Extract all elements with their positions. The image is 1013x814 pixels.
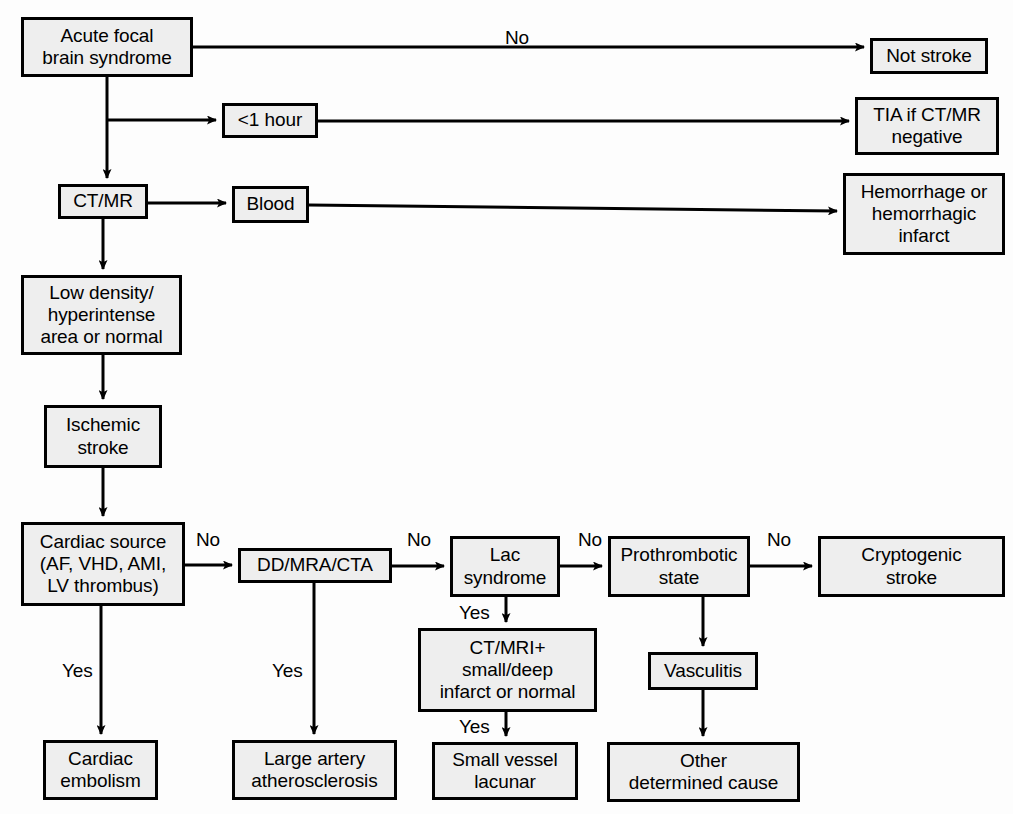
edge-label-no_cardiac_dd: No: [196, 529, 220, 551]
node-cardiac_src[interactable]: Cardiac source(AF, VHD, AMI,LV thrombus): [21, 522, 185, 606]
edge-label-no_pro_crypto: No: [767, 529, 791, 551]
node-label-ischemic: Ischemicstroke: [47, 414, 159, 458]
node-large_artery[interactable]: Large arteryatherosclerosis: [232, 740, 397, 800]
edge-label-yes_cardiac: Yes: [62, 660, 93, 682]
node-label-cardiac_src: Cardiac source(AF, VHD, AMI,LV thrombus): [24, 531, 182, 597]
node-ddmracta[interactable]: DD/MRA/CTA: [238, 548, 392, 583]
node-label-small_vessel: Small vessellacunar: [435, 749, 575, 793]
node-other_cause[interactable]: Otherdetermined cause: [607, 742, 800, 802]
edge-label-yes_lac: Yes: [459, 602, 490, 624]
node-tia[interactable]: TIA if CT/MRnegative: [855, 97, 999, 155]
edge-label-no_dd_lac: No: [407, 529, 431, 551]
node-label-not_stroke: Not stroke: [873, 45, 985, 67]
node-one_hour[interactable]: <1 hour: [222, 103, 318, 138]
node-label-other_cause: Otherdetermined cause: [610, 750, 797, 794]
edge-label-yes_dd: Yes: [272, 660, 303, 682]
node-label-cardiac_emb: Cardiacembolism: [46, 748, 155, 792]
node-acute[interactable]: Acute focalbrain syndrome: [21, 17, 193, 77]
node-cryptogenic[interactable]: Cryptogenicstroke: [818, 536, 1005, 597]
node-hemorrhage[interactable]: Hemorrhage orhemorrhagicinfarct: [843, 173, 1005, 255]
node-label-acute: Acute focalbrain syndrome: [24, 25, 190, 69]
node-label-ctmri_plus: CT/MRI+small/deepinfarct or normal: [421, 637, 594, 703]
node-label-ctmr: CT/MR: [61, 190, 145, 212]
node-label-vasculitis: Vasculitis: [651, 660, 755, 682]
node-ischemic[interactable]: Ischemicstroke: [44, 405, 162, 468]
edge-label-no_acute_notstroke: No: [505, 27, 529, 49]
edge-label-no_lac_pro: No: [578, 529, 602, 551]
node-label-ddmracta: DD/MRA/CTA: [241, 554, 389, 576]
node-blood[interactable]: Blood: [232, 186, 309, 223]
node-label-cryptogenic: Cryptogenicstroke: [821, 544, 1002, 588]
node-vasculitis[interactable]: Vasculitis: [648, 652, 758, 690]
node-label-one_hour: <1 hour: [225, 109, 315, 131]
node-lowdensity[interactable]: Low density/hyperintensearea or normal: [21, 275, 182, 355]
node-cardiac_emb[interactable]: Cardiacembolism: [43, 740, 158, 800]
edge-label-yes_ctmri: Yes: [459, 716, 490, 738]
node-ctmr[interactable]: CT/MR: [58, 184, 148, 219]
node-label-tia: TIA if CT/MRnegative: [858, 104, 996, 148]
node-label-hemorrhage: Hemorrhage orhemorrhagicinfarct: [846, 181, 1002, 247]
node-label-lac: Lacsyndrome: [453, 544, 557, 588]
node-prothrombotic[interactable]: Prothromboticstate: [608, 536, 750, 597]
node-label-blood: Blood: [235, 193, 306, 215]
node-label-lowdensity: Low density/hyperintensearea or normal: [24, 282, 179, 348]
node-label-large_artery: Large arteryatherosclerosis: [235, 748, 394, 792]
node-label-prothrombotic: Prothromboticstate: [611, 544, 747, 588]
node-small_vessel[interactable]: Small vessellacunar: [432, 742, 578, 800]
node-not_stroke[interactable]: Not stroke: [870, 38, 988, 74]
node-ctmri_plus[interactable]: CT/MRI+small/deepinfarct or normal: [418, 628, 597, 712]
flowchart-canvas: Acute focalbrain syndromeNot stroke<1 ho…: [0, 0, 1013, 814]
node-lac[interactable]: Lacsyndrome: [450, 536, 560, 597]
